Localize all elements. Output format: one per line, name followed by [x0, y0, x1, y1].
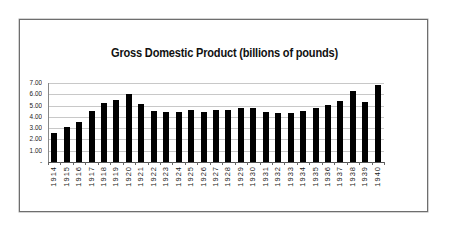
bar-1936	[325, 105, 331, 162]
y-tick-label: 4.00	[20, 112, 42, 121]
bar-1929	[238, 108, 244, 162]
gridline	[48, 94, 384, 95]
x-tick	[334, 162, 335, 165]
x-tick-label: 1933	[287, 166, 295, 187]
x-tick	[185, 162, 186, 165]
x-tick-label: 1922	[150, 166, 158, 187]
bar-1928	[225, 110, 231, 162]
x-tick-label: 1934	[299, 166, 307, 187]
y-tick-label: 7.00	[20, 78, 42, 87]
x-tick-label: 1924	[175, 166, 183, 187]
x-tick	[384, 162, 385, 165]
x-tick-label: 1930	[249, 166, 257, 187]
x-tick-label: 1916	[75, 166, 83, 187]
bar-1930	[250, 108, 256, 162]
y-tick-label: -	[20, 157, 42, 166]
bar-1918	[101, 103, 107, 162]
x-tick	[160, 162, 161, 165]
y-tick-label: 1.00	[20, 146, 42, 155]
x-tick	[284, 162, 285, 165]
bar-1932	[275, 113, 281, 162]
bar-1931	[263, 112, 269, 162]
bar-1916	[76, 122, 82, 162]
x-tick-label: 1920	[125, 166, 133, 187]
gridline	[48, 83, 384, 84]
x-tick	[260, 162, 261, 165]
y-tick-label: 3.00	[20, 123, 42, 132]
x-tick-label: 1939	[361, 166, 369, 187]
bar-1919	[113, 100, 119, 162]
x-tick-label: 1919	[112, 166, 120, 187]
bar-1925	[188, 110, 194, 162]
bar-1921	[138, 104, 144, 162]
x-tick	[247, 162, 248, 165]
bar-1915	[64, 127, 70, 162]
chart-title: Gross Domestic Product (billions of poun…	[18, 46, 431, 60]
x-tick-label: 1925	[187, 166, 195, 187]
x-tick-label: 1935	[312, 166, 320, 187]
x-tick	[347, 162, 348, 165]
x-tick-label: 1915	[63, 166, 71, 187]
bar-1926	[201, 112, 207, 162]
bar-1938	[350, 91, 356, 162]
bar-1933	[288, 113, 294, 162]
x-tick	[135, 162, 136, 165]
x-tick	[98, 162, 99, 165]
bar-1934	[300, 111, 306, 162]
x-tick-label: 1927	[212, 166, 220, 187]
x-tick	[309, 162, 310, 165]
plot-area	[48, 83, 384, 162]
x-tick	[222, 162, 223, 165]
y-tick-label: 6.00	[20, 89, 42, 98]
x-tick	[359, 162, 360, 165]
x-tick-label: 1921	[137, 166, 145, 187]
bar-1923	[163, 112, 169, 162]
bar-1935	[313, 108, 319, 162]
x-tick	[73, 162, 74, 165]
x-tick-label: 1932	[274, 166, 282, 187]
x-tick-label: 1918	[100, 166, 108, 187]
bar-1917	[89, 111, 95, 162]
x-tick-label: 1936	[324, 166, 332, 187]
x-tick-label: 1926	[200, 166, 208, 187]
bar-1914	[51, 133, 57, 162]
bar-1940	[375, 85, 381, 162]
y-axis	[48, 83, 49, 163]
gridline	[48, 106, 384, 107]
bar-1924	[176, 112, 182, 162]
x-tick	[197, 162, 198, 165]
bar-1939	[362, 102, 368, 162]
x-tick	[172, 162, 173, 165]
x-tick	[210, 162, 211, 165]
y-tick-label: 2.00	[20, 134, 42, 143]
x-tick	[322, 162, 323, 165]
y-tick-label: 5.00	[20, 101, 42, 110]
x-tick-label: 1928	[224, 166, 232, 187]
x-tick	[85, 162, 86, 165]
x-tick	[148, 162, 149, 165]
x-tick	[272, 162, 273, 165]
x-tick	[48, 162, 49, 165]
bar-1927	[213, 110, 219, 162]
x-tick-label: 1931	[262, 166, 270, 187]
x-tick	[60, 162, 61, 165]
x-tick	[110, 162, 111, 165]
x-tick-label: 1937	[336, 166, 344, 187]
bar-1937	[337, 101, 343, 162]
x-tick	[235, 162, 236, 165]
x-tick-label: 1917	[88, 166, 96, 187]
x-tick	[123, 162, 124, 165]
x-tick-label: 1929	[237, 166, 245, 187]
bar-1922	[151, 111, 157, 162]
x-tick	[372, 162, 373, 165]
x-tick	[297, 162, 298, 165]
x-tick-label: 1938	[349, 166, 357, 187]
x-tick-label: 1923	[162, 166, 170, 187]
bar-1920	[126, 94, 132, 162]
x-tick-label: 1940	[374, 166, 382, 187]
x-tick-label: 1914	[50, 166, 58, 187]
